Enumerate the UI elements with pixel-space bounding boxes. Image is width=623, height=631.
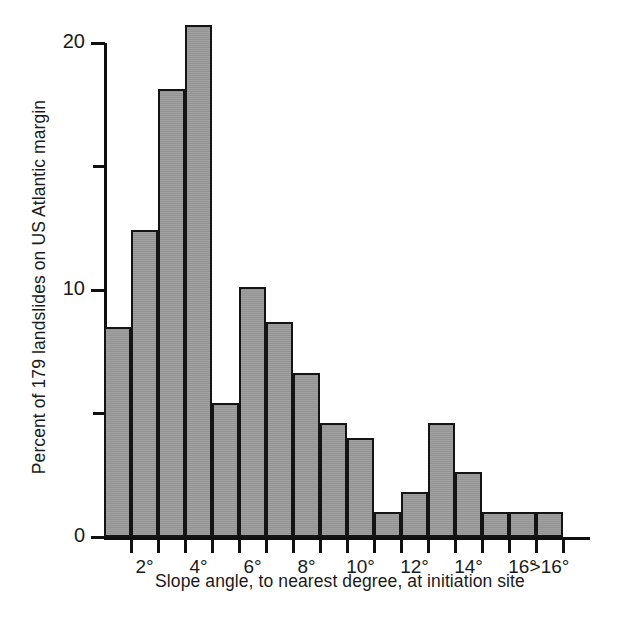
x-axis-tick (319, 540, 322, 553)
y-axis-title: Percent of 179 landslides on US Atlantic… (26, 37, 52, 537)
histogram-bar (185, 25, 212, 537)
histogram-bar (293, 373, 320, 537)
x-axis-tick (373, 540, 376, 553)
x-axis-tick (454, 540, 457, 553)
histogram-bar (320, 423, 347, 537)
y-axis-tick-major: 20 (91, 42, 105, 45)
x-axis-tick (130, 540, 133, 553)
y-axis-tick-label: 10 (63, 276, 85, 300)
x-axis-tick (562, 540, 565, 553)
histogram-bar (428, 423, 455, 537)
histogram-bar (212, 403, 239, 537)
histogram-bar (104, 327, 131, 537)
x-axis-tick (265, 540, 268, 553)
x-axis-tick (211, 540, 214, 553)
y-axis-tick-minor (93, 165, 105, 168)
histogram-bar (266, 322, 293, 537)
histogram-bar (401, 492, 428, 537)
x-axis-tick (508, 540, 511, 553)
x-axis-tick (292, 540, 295, 553)
x-axis-tick (157, 540, 160, 553)
y-axis-tick-label: 0 (74, 523, 85, 547)
x-axis-tick (184, 540, 187, 553)
histogram-bar (536, 512, 563, 537)
histogram-bar (131, 230, 158, 537)
histogram-figure: Percent of 179 landslides on US Atlantic… (0, 0, 623, 631)
histogram-bar (347, 438, 374, 537)
histogram-bar (374, 512, 401, 537)
histogram-bar (158, 89, 185, 537)
histogram-bar (455, 472, 482, 537)
x-axis-tick (481, 540, 484, 553)
plot-area: 010202°4°6°8°10°12°14°16°>16° (104, 30, 590, 540)
y-axis-tick-major: 10 (91, 289, 105, 292)
x-axis-tick (427, 540, 430, 553)
x-axis-tick (346, 540, 349, 553)
x-axis-tick (238, 540, 241, 553)
y-axis-tick-label: 20 (63, 29, 85, 53)
x-axis-tick (400, 540, 403, 553)
histogram-bar (239, 287, 266, 537)
histogram-bar (509, 512, 536, 537)
y-axis-tick-major: 0 (91, 536, 105, 539)
x-axis-tick (535, 540, 538, 553)
x-axis-title: Slope angle, to nearest degree, at initi… (100, 571, 580, 592)
histogram-bar (482, 512, 509, 537)
